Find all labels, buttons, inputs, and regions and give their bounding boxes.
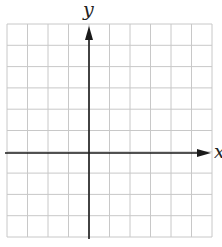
x-axis-arrow-icon — [197, 149, 211, 157]
y-axis-arrow-icon — [85, 26, 93, 40]
y-axis-label: y — [83, 0, 94, 19]
grid-graphic — [0, 0, 222, 247]
x-axis-label: x — [214, 142, 222, 161]
grid-lines — [7, 24, 212, 237]
